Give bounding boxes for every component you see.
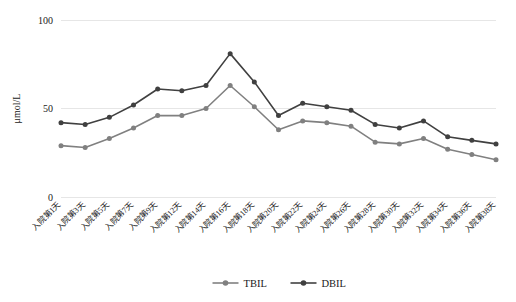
data-point [421,136,426,141]
data-point [469,138,474,143]
y-tick-label: 0 [48,192,53,203]
data-point [204,83,209,88]
data-point [373,140,378,145]
legend-label: TBIL [244,278,267,289]
chart-legend: TBILDBIL [213,278,347,289]
data-point [421,118,426,123]
series-line [61,85,496,159]
data-point [494,141,499,146]
y-tick-label: 50 [43,103,53,114]
data-point [300,118,305,123]
data-point [252,104,257,109]
y-axis-title: μmol/L [11,94,22,124]
data-point [445,147,450,152]
data-point [469,152,474,157]
data-point [83,145,88,150]
data-point [228,83,233,88]
x-axis-category-labels: 入院第1天入院第3天入院第5天入院第7天入院第9天入院第12天入院第14天入院第… [30,199,498,234]
chart-canvas: 050100 μmol/L 入院第1天入院第3天入院第5天入院第7天入院第9天入… [0,0,516,302]
data-point [324,104,329,109]
data-point [324,120,329,125]
data-point [228,51,233,56]
data-point [107,136,112,141]
y-tick-label: 100 [38,15,53,26]
data-point [276,113,281,118]
data-point [252,79,257,84]
data-point [300,101,305,106]
data-point [131,102,136,107]
data-point [397,125,402,130]
data-point [373,122,378,127]
data-point [397,141,402,146]
data-point [494,157,499,162]
bilirubin-trend-chart: 050100 μmol/L 入院第1天入院第3天入院第5天入院第7天入院第9天入… [0,0,516,302]
legend-item-dbil[interactable]: DBIL [291,278,347,289]
y-axis-title-label: μmol/L [11,94,22,124]
data-point [349,108,354,113]
data-point [179,113,184,118]
data-point [83,122,88,127]
data-point [107,115,112,120]
legend-item-tbil[interactable]: TBIL [213,278,267,289]
legend-marker [301,280,307,286]
data-point [59,143,64,148]
data-point [155,87,160,92]
series-tbil [59,83,499,162]
y-axis-tick-labels: 050100 [38,15,53,203]
series-lines [59,51,499,162]
data-point [204,106,209,111]
data-point [276,127,281,132]
data-point [155,113,160,118]
data-point [59,120,64,125]
data-point [179,88,184,93]
legend-marker [223,280,229,286]
legend-label: DBIL [322,278,347,289]
data-point [349,124,354,129]
data-point [131,125,136,130]
data-point [445,134,450,139]
